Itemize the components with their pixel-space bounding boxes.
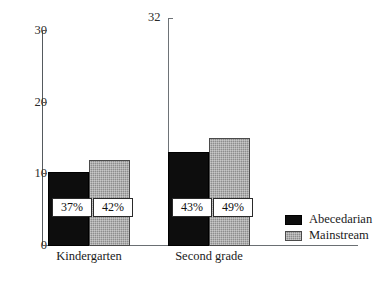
legend-item-mainstream[interactable]: Mainstream xyxy=(285,228,372,243)
bar-label-kindergarten-abecedarian: 37% xyxy=(52,198,92,217)
scale-marker-32-line xyxy=(168,18,169,152)
y-tick-30: 30 xyxy=(0,30,47,31)
category-label-second-grade: Second grade xyxy=(169,250,249,263)
bar-label-second-grade-mainstream: 49% xyxy=(213,198,253,217)
y-tick-mark-20 xyxy=(42,102,47,103)
bar-label-second-grade-abecedarian: 43% xyxy=(172,198,212,217)
y-tick-mark-0 xyxy=(42,245,47,246)
bar-chart: 30 20 10 0 32 37% 42% 43% 49% Kindergart… xyxy=(0,0,386,284)
category-label-kindergarten: Kindergarten xyxy=(49,250,129,263)
y-tick-10: 10 xyxy=(0,173,47,174)
y-tick-mark-30 xyxy=(42,30,47,31)
legend-label-mainstream: Mainstream xyxy=(309,229,369,242)
legend-label-abecedarian: Abecedarian xyxy=(309,213,372,226)
legend-item-abecedarian[interactable]: Abecedarian xyxy=(285,212,372,227)
bar-label-kindergarten-mainstream: 42% xyxy=(93,198,133,217)
legend: Abecedarian Mainstream xyxy=(285,212,372,244)
y-axis-line xyxy=(42,30,43,245)
y-tick-mark-10 xyxy=(42,173,47,174)
bar-second-grade-mainstream[interactable] xyxy=(209,138,250,246)
legend-swatch-abecedarian xyxy=(285,215,302,225)
y-tick-20: 20 xyxy=(0,102,47,103)
y-tick-0: 0 xyxy=(0,245,47,246)
scale-marker-32-label: 32 xyxy=(148,11,161,24)
legend-swatch-mainstream xyxy=(285,231,302,241)
